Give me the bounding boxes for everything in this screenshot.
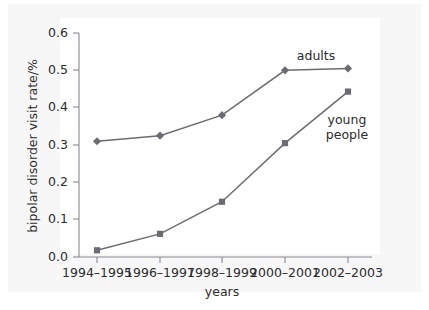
data-point-young-people-4 xyxy=(345,89,351,95)
x-tick-label-4: 2002–2003 xyxy=(313,265,383,280)
y-tick-label-3: 0.3 xyxy=(48,137,68,152)
y-axis-tick-labels: 0.6 0.5 0.4 0.3 0.2 0.1 0.0 xyxy=(48,25,68,264)
data-point-adults-1 xyxy=(156,132,164,140)
series-annotation-young-people-line1: young xyxy=(328,112,367,127)
x-axis-ticks xyxy=(97,257,348,263)
data-point-young-people-3 xyxy=(282,140,288,146)
data-point-young-people-0 xyxy=(94,247,100,253)
y-tick-label-0: 0.0 xyxy=(48,249,68,264)
x-axis-title: years xyxy=(205,284,239,299)
x-tick-label-1: 1996–1997 xyxy=(125,265,195,280)
series-annotation-young-people-line2: people xyxy=(326,127,369,142)
series-line-adults xyxy=(97,69,348,142)
x-axis-tick-labels: 1994–1995 1996–1997 1998–1999 2000–2001 … xyxy=(62,265,383,280)
data-point-young-people-2 xyxy=(219,199,225,205)
y-tick-label-1: 0.1 xyxy=(48,211,68,226)
y-tick-label-2: 0.2 xyxy=(48,174,68,189)
y-axis-title: bipolar disorder visit rate/% xyxy=(25,59,40,233)
data-point-adults-0 xyxy=(93,137,101,145)
chart-figure: 0.6 0.5 0.4 0.3 0.2 0.1 0.0 1994–1995 19… xyxy=(0,0,429,310)
y-axis-ticks xyxy=(73,33,79,257)
series-adults xyxy=(93,64,352,145)
y-tick-label-4: 0.4 xyxy=(48,99,68,114)
y-tick-label-6: 0.6 xyxy=(48,25,68,40)
series-annotation-adults: adults xyxy=(297,48,335,63)
line-chart: 0.6 0.5 0.4 0.3 0.2 0.1 0.0 1994–1995 19… xyxy=(0,0,429,310)
x-tick-label-2: 1998–1999 xyxy=(187,265,257,280)
series-layer xyxy=(93,64,352,253)
x-tick-label-0: 1994–1995 xyxy=(62,265,132,280)
data-point-adults-4 xyxy=(344,64,352,72)
data-point-young-people-1 xyxy=(157,231,163,237)
y-tick-label-5: 0.5 xyxy=(48,62,68,77)
x-tick-label-3: 2000–2001 xyxy=(250,265,320,280)
